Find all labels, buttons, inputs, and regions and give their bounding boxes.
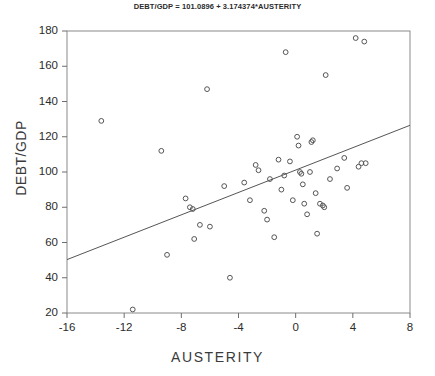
data-point — [198, 222, 203, 227]
y-tick-label: 20 — [18, 306, 58, 318]
data-point — [183, 196, 188, 201]
data-point — [313, 191, 318, 196]
data-point — [305, 212, 310, 217]
data-point — [353, 36, 358, 41]
data-point — [272, 235, 277, 240]
data-point — [222, 184, 227, 189]
data-point — [159, 148, 164, 153]
data-point — [345, 185, 350, 190]
x-tick-label: -8 — [161, 321, 201, 333]
x-tick-label: 8 — [390, 321, 430, 333]
y-tick-label: 40 — [18, 271, 58, 283]
y-tick-label: 140 — [18, 95, 58, 107]
regression-line — [67, 125, 410, 259]
data-point — [265, 217, 270, 222]
data-point — [192, 237, 197, 242]
data-point — [302, 201, 307, 206]
data-point — [300, 182, 305, 187]
y-tick-label: 60 — [18, 236, 58, 248]
data-point — [315, 231, 320, 236]
y-tick-label: 180 — [18, 24, 58, 36]
data-point — [242, 180, 247, 185]
data-point — [295, 134, 300, 139]
data-point — [99, 118, 104, 123]
data-point — [165, 252, 170, 257]
x-tick-label: -12 — [104, 321, 144, 333]
x-tick-label: 4 — [333, 321, 373, 333]
data-point — [335, 166, 340, 171]
data-point — [256, 168, 261, 173]
data-point — [130, 307, 135, 312]
data-point — [276, 157, 281, 162]
data-point — [253, 163, 258, 168]
data-point — [228, 275, 233, 280]
data-point — [362, 39, 367, 44]
data-point — [288, 159, 293, 164]
data-point — [283, 50, 288, 55]
y-tick-label: 80 — [18, 200, 58, 212]
y-tick-label: 160 — [18, 59, 58, 71]
data-point — [279, 187, 284, 192]
plot-area — [0, 0, 435, 376]
data-point — [262, 208, 267, 213]
data-point — [296, 143, 301, 148]
plot-frame — [67, 31, 410, 313]
data-point — [290, 198, 295, 203]
x-tick-label: -4 — [219, 321, 259, 333]
data-point — [308, 170, 313, 175]
y-tick-label: 100 — [18, 165, 58, 177]
scatter-plot-figure: DEBT/GDP = 101.0896 + 3.174374*AUSTERITY… — [0, 0, 435, 376]
data-point — [208, 224, 213, 229]
data-point — [328, 177, 333, 182]
data-point — [342, 156, 347, 161]
data-point — [248, 198, 253, 203]
x-tick-label: 0 — [276, 321, 316, 333]
x-tick-label: -16 — [47, 321, 87, 333]
y-tick-label: 120 — [18, 130, 58, 142]
data-point — [323, 73, 328, 78]
data-point — [205, 87, 210, 92]
